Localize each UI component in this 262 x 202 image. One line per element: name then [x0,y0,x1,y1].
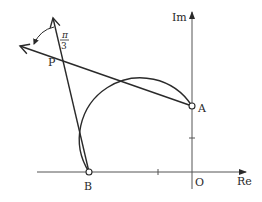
angle-label-denominator: 3 [61,41,67,51]
locus-arc [79,78,192,172]
point-B-label: B [84,180,92,193]
point-A [189,103,195,109]
origin-label: O [195,176,204,189]
ray-from-A [20,46,192,106]
real-axis-label: Re [237,175,252,188]
imag-axis-label: Im [172,11,187,24]
argand-diagram: Im Re O A B P π 3 [0,0,262,202]
ray-from-B [53,18,89,172]
angle-arc [34,27,54,44]
point-A-label: A [197,102,207,115]
angle-label-numerator: π [61,30,69,40]
point-P-label: P [48,56,56,69]
point-B [86,169,92,175]
